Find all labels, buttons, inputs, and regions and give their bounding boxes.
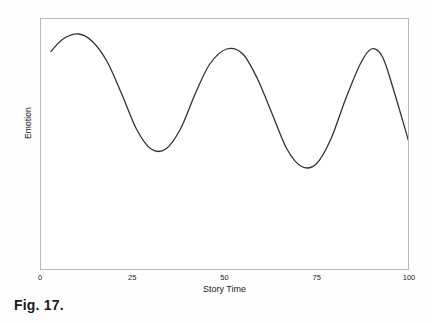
emotion-curve-svg (41, 19, 408, 269)
x-tick-0: 0 (38, 273, 42, 282)
figure-container: Emotion 0 25 50 75 100 Story Time Fig. 1… (0, 0, 432, 323)
y-axis-label: Emotion (23, 93, 33, 153)
x-axis-label: Story Time (40, 284, 409, 294)
x-tick-100: 100 (403, 273, 416, 282)
plot-area (40, 18, 409, 270)
x-tick-25: 25 (128, 273, 136, 282)
x-tick-50: 50 (220, 273, 228, 282)
figure-caption: Fig. 17. (14, 297, 64, 313)
x-tick-75: 75 (313, 273, 321, 282)
emotion-line-path (51, 34, 408, 254)
